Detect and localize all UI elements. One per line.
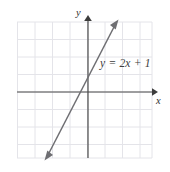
x-axis-label: x (156, 95, 161, 106)
y-axis (84, 15, 92, 158)
line-equation-label: y = 2x + 1 (100, 57, 151, 69)
graph-canvas (0, 0, 170, 172)
line-arrowhead-lower-left (45, 151, 54, 161)
plotted-line (45, 20, 119, 161)
coordinate-plane-figure: y = 2x + 1 y x (0, 0, 170, 172)
grid-lines (17, 22, 152, 158)
y-axis-arrowhead (84, 15, 92, 21)
y-axis-label: y (76, 7, 81, 18)
line-arrowhead-upper-right (110, 20, 119, 30)
